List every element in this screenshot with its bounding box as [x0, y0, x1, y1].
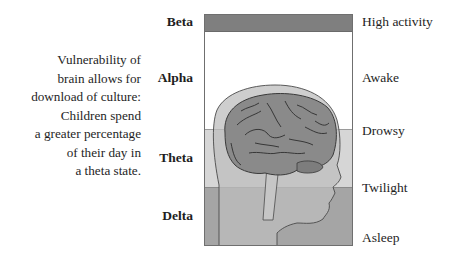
state-awake: Awake	[362, 70, 399, 86]
state-twilight: Twilight	[362, 180, 408, 196]
caption-text: Vulnerability of brain allows for downlo…	[0, 51, 141, 181]
caption-line: brain allows for	[0, 70, 141, 89]
caption-line: a greater percentage	[0, 125, 141, 144]
caption-line: of their day in	[0, 144, 141, 163]
caption-line: a theta state.	[0, 162, 141, 181]
head-brain-icon	[205, 15, 353, 246]
caption-line: download of culture:	[0, 88, 141, 107]
state-asleep: Asleep	[362, 230, 400, 246]
wave-label-alpha: Alpha	[158, 70, 193, 86]
brainwave-figure	[204, 14, 353, 246]
caption-line: Vulnerability of	[0, 51, 141, 70]
state-high-activity: High activity	[362, 14, 433, 30]
state-drowsy: Drowsy	[362, 123, 405, 139]
caption-line: Children spend	[0, 107, 141, 126]
wave-label-beta: Beta	[167, 14, 193, 30]
wave-label-theta: Theta	[159, 150, 193, 166]
wave-label-delta: Delta	[162, 208, 193, 224]
